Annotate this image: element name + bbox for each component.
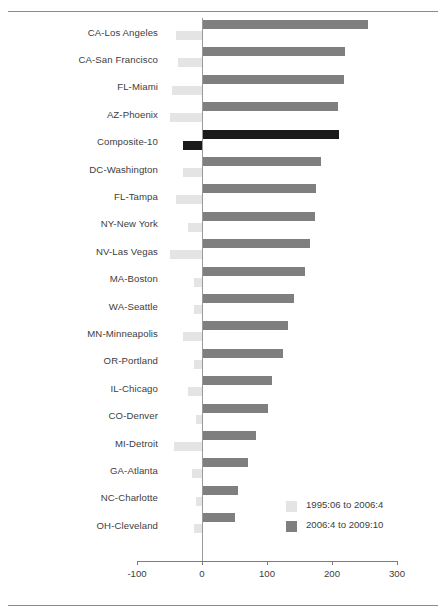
bar-recent-period — [202, 20, 368, 29]
legend-swatch-icon — [286, 501, 297, 512]
legend-series-1995-2006: 1995:06 to 2006:4 — [286, 497, 436, 517]
category-label: NV-Las Vegas — [96, 245, 158, 256]
bar-earlier-period — [170, 113, 202, 122]
bar-recent-period — [202, 431, 256, 440]
bar-earlier-period — [188, 387, 202, 396]
bar-recent-period — [202, 157, 321, 166]
category-label: WA-Seattle — [109, 300, 158, 311]
bar-earlier-period — [183, 141, 203, 150]
bar-earlier-period — [192, 469, 202, 478]
category-label: IL-Chicago — [111, 382, 158, 393]
bar-earlier-period — [176, 195, 202, 204]
category-label: NC-Charlotte — [101, 492, 158, 503]
x-axis-tick — [397, 561, 398, 565]
x-axis-tick-label: 0 — [199, 568, 204, 579]
category-label: GA-Atlanta — [110, 464, 158, 475]
bar-earlier-period — [183, 332, 203, 341]
bar-recent-period — [202, 130, 339, 139]
chart-figure: CA-Los AngelesCA-San FranciscoFL-MiamiAZ… — [0, 0, 446, 616]
bar-recent-period — [202, 404, 268, 413]
chart-row: MN-Minneapolis — [0, 319, 446, 346]
bar-recent-period — [202, 239, 310, 248]
bar-recent-period — [202, 294, 294, 303]
chart-row: MI-Detroit — [0, 429, 446, 456]
chart-row: AZ-Phoenix — [0, 100, 446, 127]
bar-recent-period — [202, 102, 338, 111]
chart-row: OR-Portland — [0, 347, 446, 374]
bar-earlier-period — [194, 360, 202, 369]
x-axis-tick — [202, 561, 203, 565]
bar-earlier-period — [194, 278, 202, 287]
bar-recent-period — [202, 267, 305, 276]
chart-row: FL-Miami — [0, 73, 446, 100]
x-axis-tick — [137, 561, 138, 565]
bar-recent-period — [202, 349, 283, 358]
chart-row: WA-Seattle — [0, 292, 446, 319]
chart-row: CA-San Francisco — [0, 45, 446, 72]
bar-earlier-period — [183, 168, 203, 177]
category-label: DC-Washington — [89, 163, 158, 174]
x-axis-tick-label: 300 — [389, 568, 405, 579]
chart-row: FL-Tampa — [0, 182, 446, 209]
bar-earlier-period — [194, 305, 202, 314]
legend-series-2006-2009: 2006:4 to 2009:10 — [286, 517, 436, 537]
zero-axis-line — [202, 18, 203, 561]
bar-recent-period — [202, 458, 248, 467]
x-axis-tick-label: 200 — [324, 568, 340, 579]
bar-recent-period — [202, 376, 272, 385]
bar-earlier-period — [174, 442, 202, 451]
category-label: FL-Tampa — [114, 190, 158, 201]
category-label: AZ-Phoenix — [107, 108, 158, 119]
bar-recent-period — [202, 47, 345, 56]
x-axis-tick-label: -100 — [127, 568, 146, 579]
category-label: MN-Minneapolis — [87, 327, 158, 338]
bar-earlier-period — [170, 250, 202, 259]
chart-row: NY-New York — [0, 210, 446, 237]
chart-row: IL-Chicago — [0, 374, 446, 401]
x-axis: -1000100200300 — [0, 561, 446, 601]
chart-row: DC-Washington — [0, 155, 446, 182]
category-label: OH-Cleveland — [97, 519, 158, 530]
bar-earlier-period — [194, 524, 202, 533]
chart-row: GA-Atlanta — [0, 456, 446, 483]
category-label: MA-Boston — [110, 273, 158, 284]
legend-swatch-icon — [286, 521, 297, 532]
category-label: MI-Detroit — [115, 437, 158, 448]
bar-earlier-period — [178, 58, 202, 67]
bar-recent-period — [202, 486, 238, 495]
bar-recent-period — [202, 321, 288, 330]
bar-recent-period — [202, 75, 344, 84]
bar-recent-period — [202, 513, 235, 522]
chart-row: NV-Las Vegas — [0, 237, 446, 264]
chart-row: CA-Los Angeles — [0, 18, 446, 45]
category-label: Composite-10 — [97, 136, 158, 147]
bar-recent-period — [202, 212, 315, 221]
chart-row: Composite-10 — [0, 128, 446, 155]
category-label: NY-New York — [101, 218, 158, 229]
legend-label: 2006:4 to 2009:10 — [306, 519, 383, 530]
plot-area: CA-Los AngelesCA-San FranciscoFL-MiamiAZ… — [0, 18, 446, 558]
chart-row: CO-Denver — [0, 402, 446, 429]
legend-label: 1995:06 to 2006:4 — [306, 499, 383, 510]
bar-earlier-period — [188, 223, 202, 232]
category-label: CA-San Francisco — [79, 53, 158, 64]
category-label: CA-Los Angeles — [88, 26, 158, 37]
x-axis-tick — [267, 561, 268, 565]
bar-earlier-period — [176, 31, 202, 40]
x-axis-tick-label: 100 — [259, 568, 275, 579]
category-label: CO-Denver — [109, 410, 158, 421]
category-label: FL-Miami — [117, 81, 158, 92]
bar-earlier-period — [172, 86, 202, 95]
bottom-rule — [8, 605, 438, 606]
chart-legend: 1995:06 to 2006:42006:4 to 2009:10 — [286, 497, 436, 537]
bar-recent-period — [202, 184, 316, 193]
x-axis-tick — [332, 561, 333, 565]
category-label: OR-Portland — [104, 355, 158, 366]
top-rule — [8, 11, 438, 12]
chart-row: MA-Boston — [0, 265, 446, 292]
